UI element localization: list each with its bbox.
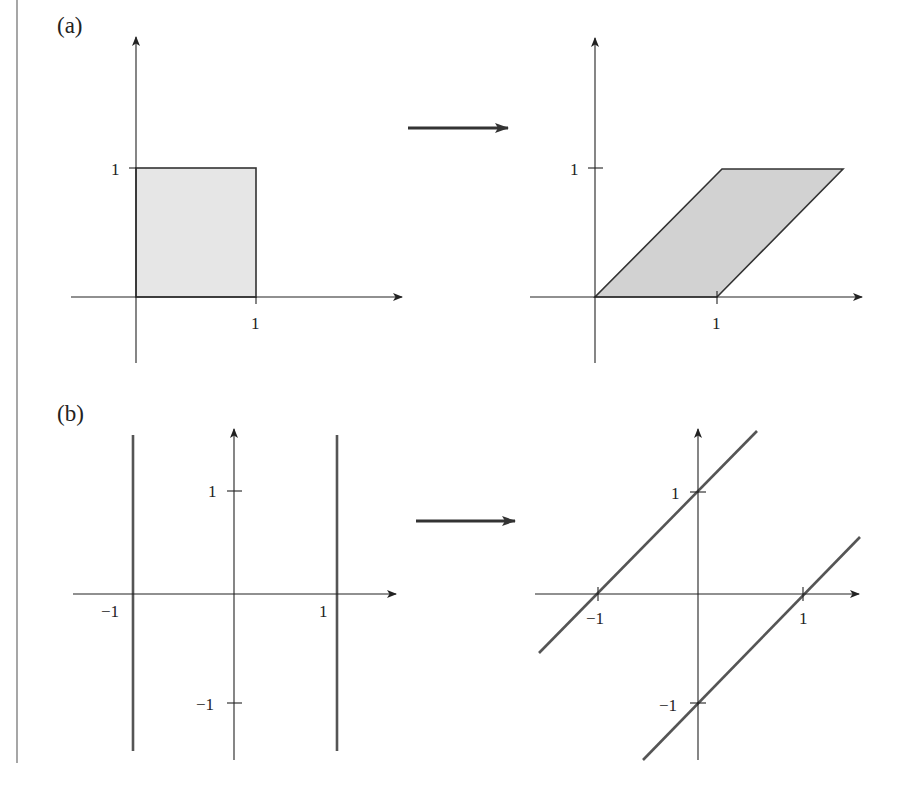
x-tick-label-1: 1	[799, 609, 808, 628]
panel-b-before-plot: 1 −1 −1 1	[73, 429, 396, 760]
panel-a-label: (a)	[57, 13, 83, 38]
y-tick-label: 1	[570, 160, 579, 179]
y-tick-label-neg1: −1	[196, 695, 214, 714]
slanted-line-y-eq-x-plus-1	[539, 431, 757, 653]
panel-a-before-plot: 1 1	[71, 37, 402, 363]
x-tick-label: 1	[712, 314, 721, 333]
y-tick-label-neg1: −1	[659, 696, 677, 715]
x-tick-label: 1	[251, 314, 260, 333]
slanted-line-y-eq-x-minus-1	[643, 537, 860, 760]
panel-b: (b) 1 −1 −1 1 1 −1 −1	[57, 401, 860, 760]
x-tick-label-1: 1	[319, 602, 328, 621]
x-tick-label-neg1: −1	[101, 602, 119, 621]
panel-a: (a) 1 1 1 1	[57, 13, 862, 363]
y-tick-label-1: 1	[208, 482, 217, 501]
unit-square	[136, 168, 256, 297]
panel-b-after-plot: 1 −1 −1 1	[535, 429, 860, 760]
y-tick-label: 1	[111, 160, 120, 179]
y-tick-label-1: 1	[671, 484, 680, 503]
panel-a-after-plot: 1 1	[530, 38, 862, 363]
panel-b-label: (b)	[57, 401, 84, 426]
x-tick-label-neg1: −1	[586, 609, 604, 628]
figure-canvas: (a) 1 1 1 1 (b)	[0, 0, 906, 786]
sheared-parallelogram	[595, 169, 843, 297]
